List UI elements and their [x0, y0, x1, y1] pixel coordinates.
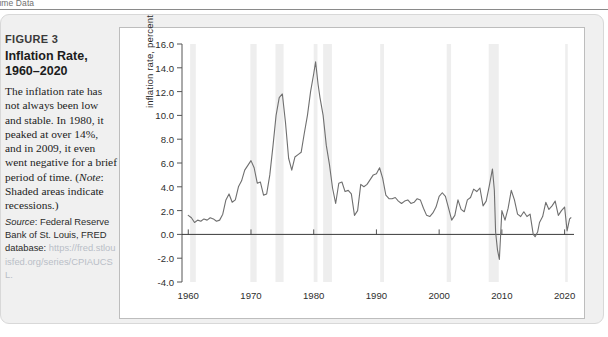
y-tick-label: -2.0: [140, 253, 174, 264]
y-tick-label: 4.0: [140, 181, 174, 192]
figure-title: Inflation Rate, 1960–2020: [5, 49, 117, 79]
recession-band: [275, 44, 283, 282]
figure-source-label: Source: [5, 216, 35, 227]
y-tick-label: 14.0: [140, 62, 174, 73]
figure-description: The inflation rate has not always been l…: [5, 84, 117, 213]
y-tick-label: 0.0: [140, 229, 174, 240]
figure-number: FIGURE 3: [5, 33, 117, 46]
chart-panel: inflation rate, percent 16.014.012.010.0…: [119, 27, 585, 319]
figure-note-label: Note: [79, 171, 101, 183]
recession-band: [380, 44, 384, 282]
figure-description-text: The inflation rate has not always been l…: [5, 85, 117, 183]
figure-card: FIGURE 3 Inflation Rate, 1960–2020 The i…: [0, 14, 604, 324]
x-tick-label: 1980: [290, 290, 338, 301]
header-divider: [0, 9, 608, 10]
recession-band: [323, 44, 332, 282]
y-tick-label: 2.0: [140, 205, 174, 216]
y-tick-label: 8.0: [140, 134, 174, 145]
x-tick-label: 2010: [478, 290, 526, 301]
x-tick-label: 1960: [164, 290, 212, 301]
y-tick-label: 10.0: [140, 110, 174, 121]
chart-plot-inner: inflation rate, percent 16.014.012.010.0…: [120, 28, 584, 318]
y-tick-label: 12.0: [140, 86, 174, 97]
recession-band: [314, 44, 318, 282]
x-tick-label: 2000: [415, 290, 463, 301]
y-tick-label: 16.0: [140, 39, 174, 50]
recession-band: [250, 44, 256, 282]
series-line: [188, 62, 571, 260]
running-header-text: l-time Data: [0, 0, 34, 8]
y-tick-label: 6.0: [140, 158, 174, 169]
x-tick-label: 1990: [352, 290, 400, 301]
x-tick-label: 1970: [227, 290, 275, 301]
recession-band: [565, 44, 568, 282]
chart-svg: [120, 28, 586, 320]
x-tick-label: 2020: [541, 290, 589, 301]
figure-source: Source: Federal Reserve Bank of St. Loui…: [5, 215, 117, 282]
recession-band: [447, 44, 451, 282]
figure-caption-column: FIGURE 3 Inflation Rate, 1960–2020 The i…: [5, 33, 117, 282]
recession-band: [190, 44, 196, 282]
y-tick-label: -4.0: [140, 277, 174, 288]
